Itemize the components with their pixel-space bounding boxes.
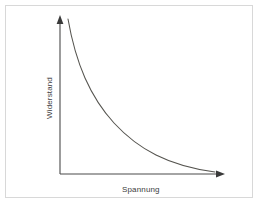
x-axis-label: Spannung	[122, 185, 160, 194]
chart-figure: Spannung Widerstand	[0, 0, 270, 210]
resistance-voltage-curve	[68, 19, 215, 172]
x-axis-arrow-icon	[216, 171, 225, 178]
y-axis-arrow-icon	[57, 15, 64, 24]
y-axis-label: Widerstand	[45, 77, 54, 119]
plot-area	[0, 0, 270, 210]
